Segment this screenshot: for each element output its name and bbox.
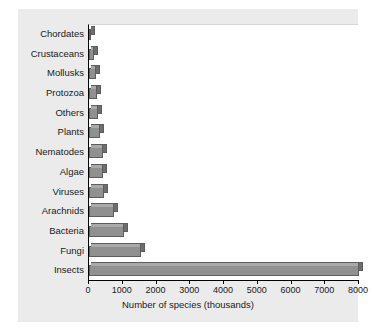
bar: [89, 206, 114, 217]
bar-row: [89, 183, 358, 203]
bar: [89, 68, 96, 79]
x-axis-tick-mark: [291, 280, 292, 284]
bar-row: [89, 163, 358, 183]
x-axis-tick-label: 7000: [314, 285, 334, 295]
y-axis-category-labels: ChordatesCrustaceansMollusksProtozoaOthe…: [18, 24, 84, 280]
x-axis-tick-label: 6000: [280, 285, 300, 295]
x-axis-tick-mark: [358, 280, 359, 284]
y-axis-tick-label: Bacteria: [18, 221, 84, 241]
y-axis-tick-label: Others: [18, 103, 84, 123]
bar-row: [89, 242, 358, 262]
bar: [89, 167, 103, 178]
x-axis-tick-mark: [324, 280, 325, 284]
bar-row: [89, 261, 358, 281]
y-axis-tick-label: Mollusks: [18, 63, 84, 83]
bar-row: [89, 64, 358, 84]
x-axis-tick-mark: [156, 280, 157, 284]
y-axis-tick-label: Crustaceans: [18, 44, 84, 64]
plot-area: [88, 24, 358, 280]
y-axis-tick-label: Chordates: [18, 24, 84, 44]
y-axis-tick-label: Algae: [18, 162, 84, 182]
bar: [89, 88, 97, 99]
y-axis-tick-label: Nematodes: [18, 142, 84, 162]
x-axis-title: Number of species (thousands): [18, 299, 358, 310]
x-axis-tick-label: 8000: [348, 285, 368, 295]
bar: [89, 246, 141, 257]
x-axis-tick-label: 3000: [179, 285, 199, 295]
bar: [89, 49, 94, 60]
bar-row: [89, 202, 358, 222]
y-axis-tick-label: Plants: [18, 122, 84, 142]
bar: [89, 108, 98, 119]
x-axis-tick-label: 4000: [213, 285, 233, 295]
chart-figure: ChordatesCrustaceansMollusksProtozoaOthe…: [18, 9, 358, 322]
bar: [89, 187, 104, 198]
x-axis-tick-label: 0: [85, 285, 90, 295]
bar-row: [89, 104, 358, 124]
bar-row: [89, 143, 358, 163]
y-axis-tick-label: Protozoa: [18, 83, 84, 103]
y-axis-tick-label: Insects: [18, 260, 84, 280]
y-axis-tick-label: Fungi: [18, 241, 84, 261]
y-axis-tick-label: Arachnids: [18, 201, 84, 221]
bar-row: [89, 123, 358, 143]
bar: [89, 29, 91, 40]
x-axis-tick-mark: [223, 280, 224, 284]
bar-row: [89, 222, 358, 242]
bar-row: [89, 84, 358, 104]
bar-series: [89, 25, 358, 280]
x-axis-tick-label: 2000: [145, 285, 165, 295]
x-axis-tick-mark: [257, 280, 258, 284]
x-axis-tick-mark: [122, 280, 123, 284]
bar: [89, 147, 103, 158]
bar: [89, 226, 124, 237]
bar-row: [89, 25, 358, 45]
bar-row: [89, 45, 358, 65]
x-axis-tick-label: 5000: [247, 285, 267, 295]
x-axis-tick-label: 1000: [112, 285, 132, 295]
x-axis-tick-mark: [189, 280, 190, 284]
x-axis-tick-mark: [88, 280, 89, 284]
bar: [89, 127, 100, 138]
y-axis-tick-label: Viruses: [18, 182, 84, 202]
bar: [89, 265, 359, 276]
